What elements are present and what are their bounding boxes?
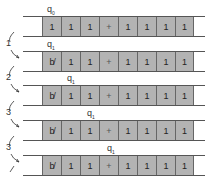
tape-cell: 1 <box>137 86 156 105</box>
tape-cell-blank: b̸ <box>42 52 61 71</box>
state-label: q1 <box>47 39 55 51</box>
tape-row-0: q0 1 1 1 + 1 1 1 1 <box>0 4 215 40</box>
tape-cell: 1 <box>80 17 99 36</box>
tape-cell: 1 <box>61 156 80 175</box>
tape-cell: 1 <box>80 121 99 140</box>
tape-cell: 1 <box>61 121 80 140</box>
tape-cell: 1 <box>61 86 80 105</box>
tape-cell: 1 <box>61 17 80 36</box>
state-label: q1 <box>67 73 75 85</box>
tape-cell-blank: b̸ <box>42 86 61 105</box>
tape-cell: 1 <box>156 86 175 105</box>
tape-cell: 1 <box>156 121 175 140</box>
tape-cell: 1 <box>118 17 137 36</box>
tape-cell: 1 <box>80 156 99 175</box>
tape-cell: 1 <box>80 52 99 71</box>
tape-cell: 1 <box>175 52 194 71</box>
tape-cell: + <box>99 86 118 105</box>
tape-cell: 1 <box>61 52 80 71</box>
tape: b̸ 1 1 + 1 1 1 1 <box>23 85 205 106</box>
tape: 1 1 1 + 1 1 1 1 <box>23 16 205 37</box>
tape-row-3: q1 b̸ 1 1 + 1 1 1 1 <box>0 108 215 144</box>
tape-cell: 1 <box>156 156 175 175</box>
tape-cell: 1 <box>80 86 99 105</box>
state-label: q1 <box>87 108 95 120</box>
tape-cell: + <box>99 17 118 36</box>
tape-cell: 1 <box>118 121 137 140</box>
tape-row-4: q1 b̸ 1 1 + 1 1 1 1 <box>0 143 215 179</box>
tape-cell-blank: b̸ <box>42 121 61 140</box>
tape-cell: 1 <box>175 86 194 105</box>
tape-cell: 1 <box>175 17 194 36</box>
tape-cell: 1 <box>118 156 137 175</box>
state-label: q0 <box>47 4 55 16</box>
tape-cell: + <box>99 121 118 140</box>
tape-cell: 1 <box>137 17 156 36</box>
tape-cell: 1 <box>137 52 156 71</box>
tape-cell: 1 <box>137 156 156 175</box>
tape: b̸ 1 1 + 1 1 1 1 <box>23 51 205 72</box>
tape-cell: 1 <box>118 52 137 71</box>
tape-row-1: q1 b̸ 1 1 + 1 1 1 1 <box>0 39 215 75</box>
tape-cell: 1 <box>137 121 156 140</box>
tape: b̸ 1 1 + 1 1 1 1 <box>23 120 205 141</box>
tape-cell: 1 <box>175 121 194 140</box>
tape-cell: 1 <box>156 17 175 36</box>
tape-cell-blank: b̸ <box>42 156 61 175</box>
tape-cell: 1 <box>118 86 137 105</box>
tape-cell: 1 <box>42 17 61 36</box>
tape: b̸ 1 1 + 1 1 1 1 <box>23 155 205 176</box>
tape-cell: 1 <box>175 156 194 175</box>
state-label: q1 <box>107 143 115 155</box>
tape-row-2: q1 b̸ 1 1 + 1 1 1 1 <box>0 73 215 109</box>
tape-cell: + <box>99 156 118 175</box>
tape-cell: + <box>99 52 118 71</box>
tape-cell: 1 <box>156 52 175 71</box>
